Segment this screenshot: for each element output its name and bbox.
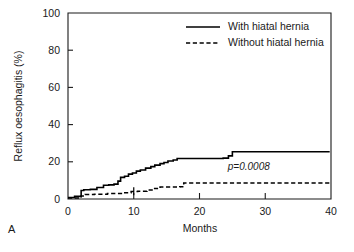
- figure-panel-a: 020406080100 010203040 Reflux oesophagit…: [0, 0, 354, 252]
- y-tick-label: 80: [48, 44, 60, 56]
- x-tick-label: 40: [325, 205, 337, 217]
- y-axis-title: Reflux oesophagitis (%): [12, 51, 24, 162]
- annotation-0: p=0.0008: [227, 161, 270, 172]
- y-tick-label: 0: [54, 193, 60, 205]
- x-tick-label: 10: [128, 205, 140, 217]
- chart-annotations: p=0.0008: [227, 161, 270, 172]
- kaplan-meier-chart: 020406080100 010203040 Reflux oesophagit…: [0, 0, 354, 252]
- legend-label-0: With hiatal hernia: [228, 20, 309, 32]
- y-tick-label: 100: [42, 7, 60, 19]
- series-group: [68, 152, 330, 198]
- panel-label: A: [8, 223, 16, 235]
- x-tick-label: 20: [194, 205, 206, 217]
- chart-legend: With hiatal herniaWithout hiatal hernia: [186, 20, 324, 48]
- x-tick-label: 30: [259, 205, 271, 217]
- x-axis-ticks: 010203040: [65, 193, 337, 217]
- x-axis-title: Months: [183, 222, 217, 234]
- y-tick-label: 20: [48, 155, 60, 167]
- y-tick-label: 40: [48, 118, 60, 130]
- series-line-0: [68, 152, 330, 198]
- x-tick-label: 0: [65, 205, 71, 217]
- y-tick-label: 60: [48, 81, 60, 93]
- legend-label-1: Without hiatal hernia: [228, 36, 324, 48]
